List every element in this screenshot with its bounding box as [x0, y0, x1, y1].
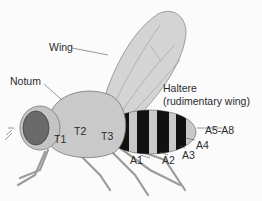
label-a5-a8: A5-A8	[205, 125, 234, 136]
label-t3: T3	[101, 131, 113, 142]
label-haltere-note: (rudimentary wing)	[163, 96, 250, 107]
label-a3: A3	[182, 150, 195, 161]
label-notum: Notum	[10, 76, 41, 87]
label-t2: T2	[74, 126, 86, 137]
label-wing: Wing	[49, 42, 73, 53]
label-a2: A2	[162, 155, 175, 166]
label-t1: T1	[54, 134, 66, 145]
label-haltere: Haltere	[163, 83, 197, 94]
head	[5, 106, 60, 150]
thorax	[50, 91, 126, 158]
label-a1: A1	[130, 155, 143, 166]
label-a4: A4	[196, 140, 209, 151]
